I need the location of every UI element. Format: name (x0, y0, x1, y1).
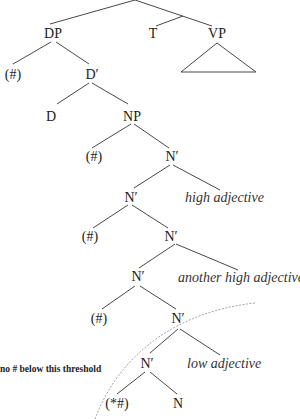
root-branches (50, 0, 212, 26)
vp-triangle (181, 43, 256, 72)
node-dp-spec: (#) (5, 67, 22, 83)
node-t: T (149, 26, 158, 41)
edge-dbar-np (92, 83, 128, 104)
node-n-bar-3: N′ (164, 229, 177, 244)
edge-nbar4-spec (102, 286, 135, 309)
edge-nbar4-nbar5 (140, 286, 176, 309)
edge-nbar2-nbar3 (132, 205, 168, 228)
node-vp: VP (208, 26, 226, 41)
edge-nbar5-nbar6 (150, 329, 178, 353)
adjunct-another-high-adjective: another high adjective (178, 270, 300, 285)
node-n-bar-5: N′ (171, 311, 184, 326)
edge-nbar6-spec (117, 372, 145, 394)
edge-root-vp (135, 0, 212, 26)
edge-nbar6-n (150, 372, 177, 394)
edge-nbar3-another-high-adj (176, 244, 238, 270)
node-n-bar-5-spec: (#) (91, 311, 108, 327)
node-n-bar-2: N′ (124, 190, 137, 205)
node-d: D (46, 109, 56, 124)
node-np: NP (123, 109, 141, 124)
edge-np-nbar (134, 124, 169, 148)
edge-nbar1-nbar2 (134, 165, 170, 188)
edge-nbar2-spec (93, 205, 128, 228)
edge-dbar-d (57, 83, 89, 104)
adjunct-high-adjective: high adjective (185, 190, 264, 205)
adjunct-low-adjective: low adjective (187, 356, 261, 371)
syntax-tree-diagram: DP T VP (#) D′ D NP (#) N′ N′ high adjec… (0, 0, 300, 419)
node-dp: DP (44, 26, 62, 41)
node-np-spec: (#) (86, 149, 103, 165)
edge-nbar3-nbar4 (139, 244, 175, 268)
node-n-bar-2-spec: (#) (82, 229, 99, 245)
node-d-bar: D′ (85, 67, 98, 82)
node-n-bar-6-spec: (*#) (105, 396, 129, 412)
edge-tbar-t (156, 16, 183, 26)
threshold-label: no # below this threshold (0, 364, 102, 374)
edge-nbar1-high-adj (173, 165, 220, 190)
node-n-bar-6: N′ (140, 356, 153, 371)
edge-dp-dbar (56, 42, 89, 64)
edge-np-spec (92, 124, 131, 148)
edge-dp-spec (13, 42, 51, 64)
edge-root-dp (50, 0, 135, 24)
node-n-bar-1: N′ (165, 149, 178, 164)
edge-nbar5-low-adj (180, 329, 220, 355)
node-n-bar-4: N′ (131, 269, 144, 284)
node-n: N (173, 396, 183, 411)
